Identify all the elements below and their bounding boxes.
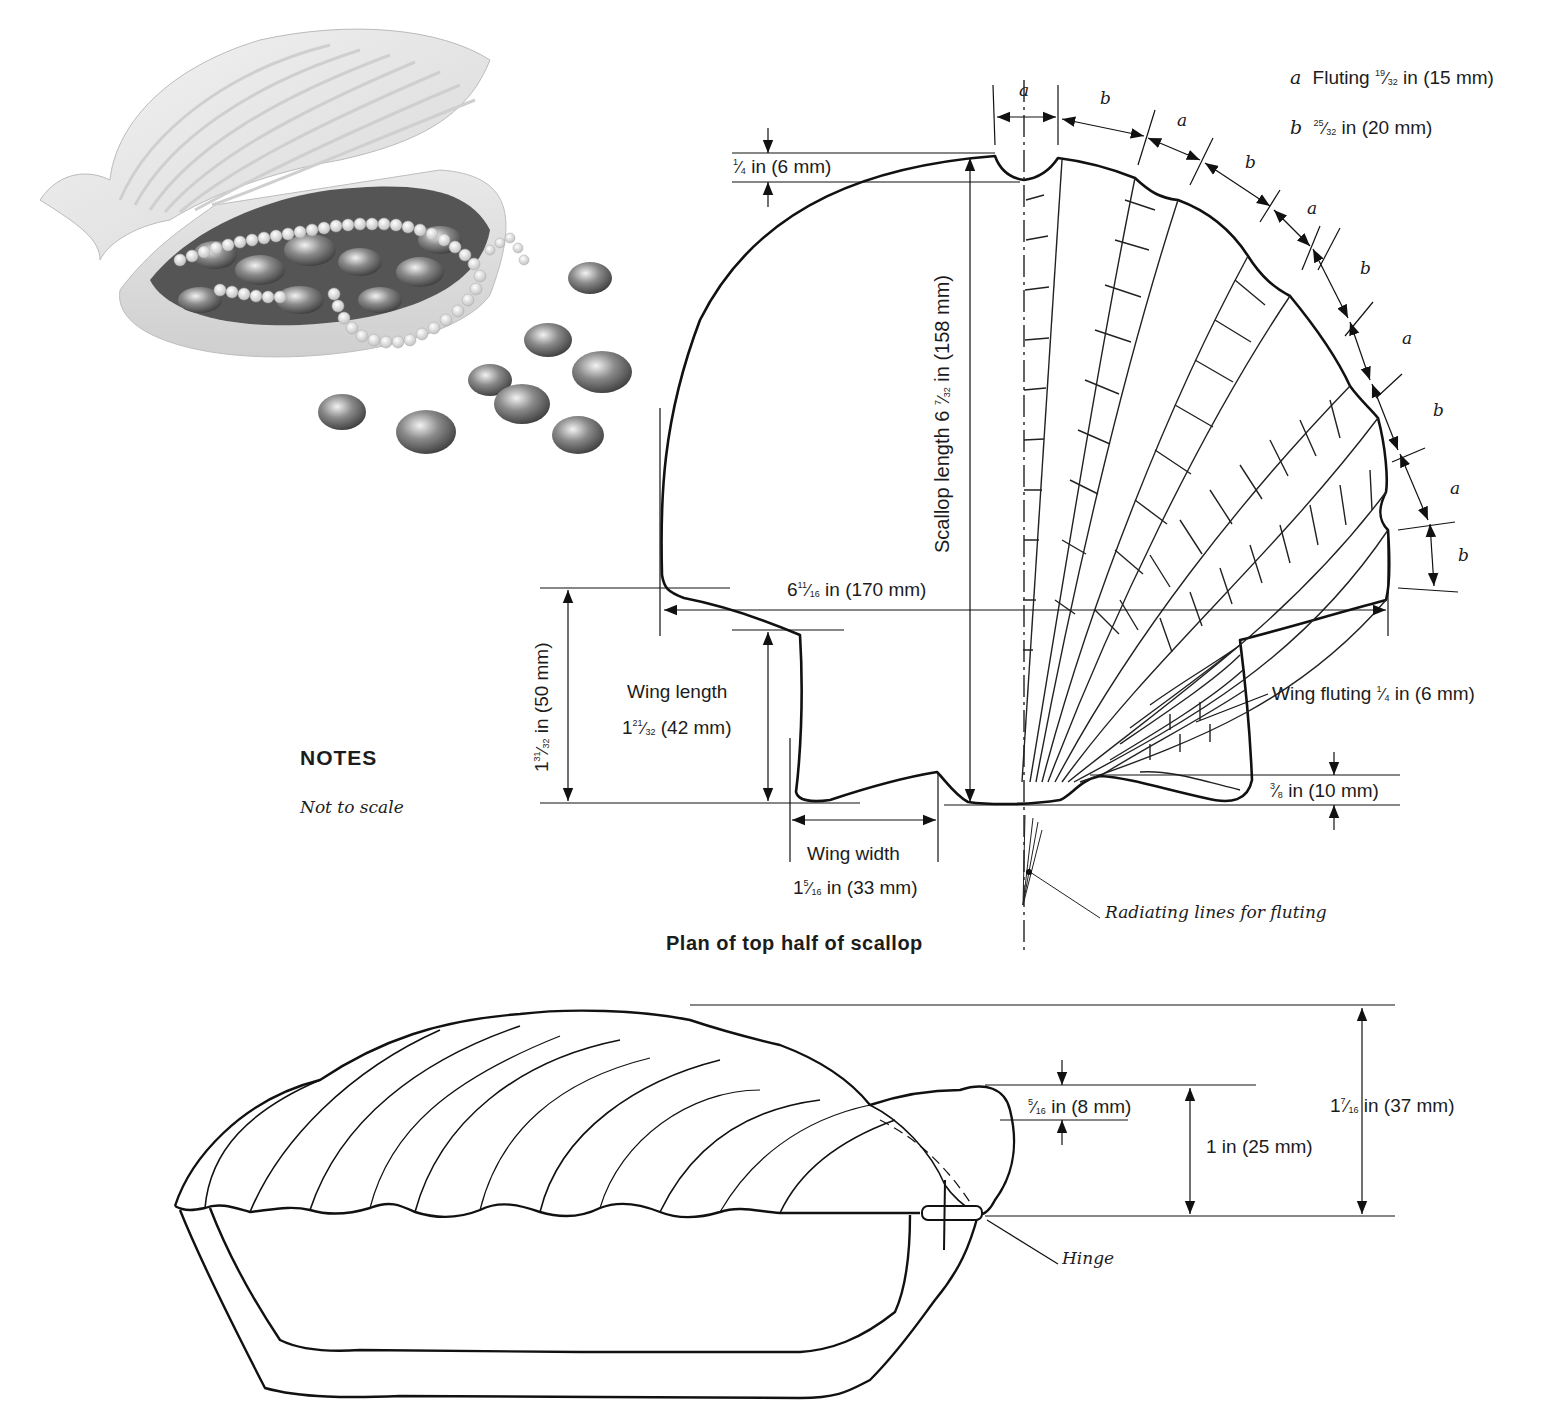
- dimension-whole: 1: [622, 717, 633, 738]
- dimension-label: Wing fluting: [1272, 683, 1371, 704]
- left-height-dimension: 131⁄32 in (50 mm): [532, 642, 551, 772]
- flute-label-6: b: [1360, 258, 1371, 278]
- hinge-height-dimension: 1 in (25 mm): [1206, 1137, 1313, 1156]
- legend-a: a Fluting 19⁄32 in (15 mm): [1290, 68, 1494, 87]
- dimension-text: in (10 mm): [1288, 780, 1379, 801]
- legend-b: b 25⁄32 in (20 mm): [1290, 118, 1432, 137]
- scallop-side-view: [175, 1011, 1014, 1398]
- dimension-whole: 6: [787, 579, 798, 600]
- legend-a-frac-num: 19: [1375, 68, 1385, 78]
- frac-den: 16: [1036, 1106, 1046, 1116]
- flute-label-2: b: [1100, 88, 1111, 108]
- legend-a-letter: a: [1290, 66, 1301, 88]
- dimension-text: in (8 mm): [1051, 1096, 1131, 1117]
- frac-den: 16: [1348, 1105, 1358, 1115]
- frac-num: 11: [798, 580, 807, 590]
- wing-length-dimension: 121⁄32 (42 mm): [622, 718, 731, 737]
- plan-title: Plan of top half of scallop: [666, 933, 923, 953]
- legend-b-frac-den: 32: [1326, 127, 1336, 137]
- flute-label-1: a: [1019, 80, 1029, 100]
- dimension-whole: 1: [531, 761, 552, 772]
- dimension-text: in (37 mm): [1364, 1095, 1455, 1116]
- scallop-length-dimension: Scallop length 6 7⁄32 in (158 mm): [932, 275, 952, 553]
- wing-fluting-dimension: Wing fluting 1⁄4 in (6 mm): [1272, 684, 1475, 703]
- dimension-text: Scallop length 6: [931, 411, 953, 553]
- technical-drawing: [0, 0, 1554, 1415]
- legend-b-rest: in (20 mm): [1342, 117, 1433, 138]
- frac-num: 21: [633, 718, 643, 728]
- base-gap-dimension: 3⁄8 in (10 mm): [1270, 781, 1379, 800]
- dimension-text: in (50 mm): [531, 642, 552, 733]
- flute-label-10: b: [1458, 545, 1469, 565]
- frac-den: 32: [645, 727, 655, 737]
- legend-a-rest: in (15 mm): [1403, 67, 1494, 88]
- dimension-whole: 1: [793, 877, 804, 898]
- notes-text: Not to scale: [300, 799, 404, 816]
- flute-label-9: a: [1450, 478, 1460, 498]
- legend-b-frac-num: 25: [1313, 118, 1323, 128]
- frac-den: 4: [1384, 693, 1389, 703]
- dimension-text: in (158 mm): [931, 275, 953, 382]
- scallop-plan-outline: [661, 156, 1389, 804]
- wing-width-label: Wing width: [807, 844, 900, 863]
- width-dimension: 611⁄16 in (170 mm): [787, 580, 926, 599]
- frac-den: 32: [942, 387, 952, 397]
- frac-den: 16: [810, 589, 820, 599]
- flute-label-4: b: [1245, 152, 1256, 172]
- legend-b-letter: b: [1290, 116, 1302, 138]
- flute-label-5: a: [1307, 198, 1317, 218]
- wing-width-dimension: 15⁄16 in (33 mm): [793, 878, 918, 897]
- hinge-callout: Hinge: [1062, 1250, 1114, 1267]
- dimension-text: (42 mm): [661, 717, 732, 738]
- plan-dimensions: [540, 85, 1458, 862]
- dimension-text: in (6 mm): [1395, 683, 1475, 704]
- flute-label-7: a: [1402, 328, 1412, 348]
- dimension-text: in (6 mm): [751, 156, 831, 177]
- hinge-offset-dimension: 5⁄16 in (8 mm): [1028, 1097, 1131, 1116]
- radiating-lines-callout: Radiating lines for fluting: [1105, 904, 1327, 921]
- flute-label-8: b: [1433, 400, 1444, 420]
- frac-den: 4: [741, 166, 746, 176]
- notes-title: NOTES: [300, 747, 377, 768]
- frac-den: 16: [811, 887, 821, 897]
- frac-num: 7: [933, 400, 943, 405]
- frac-den: 32: [541, 739, 551, 749]
- legend-a-label: Fluting: [1313, 67, 1370, 88]
- dimension-text: in (33 mm): [827, 877, 918, 898]
- frac-den: 8: [1278, 790, 1283, 800]
- total-height-dimension: 17⁄16 in (37 mm): [1330, 1096, 1455, 1115]
- top-notch-dimension: 1⁄4 in (6 mm): [733, 157, 831, 176]
- legend-a-frac-den: 32: [1388, 77, 1398, 87]
- dimension-text: in (170 mm): [825, 579, 926, 600]
- frac-num: 31: [532, 751, 542, 761]
- dimension-whole: 1: [1330, 1095, 1341, 1116]
- flute-label-3: a: [1177, 110, 1187, 130]
- wing-length-label: Wing length: [627, 682, 727, 701]
